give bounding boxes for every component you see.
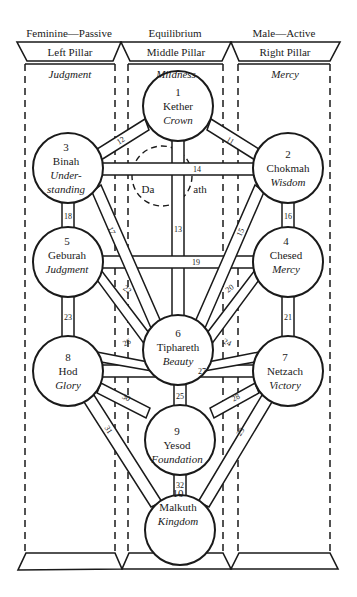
binah-name: Binah bbox=[53, 155, 80, 167]
right-pillar-polarity: Male—Active bbox=[253, 27, 316, 39]
path-23-label: 23 bbox=[64, 313, 72, 322]
hod-number: 8 bbox=[65, 351, 71, 363]
chesed-meaning: Mercy bbox=[271, 263, 300, 275]
binah-meaning-line2: standing bbox=[47, 183, 85, 195]
chesed-name: Chesed bbox=[270, 249, 303, 261]
middle-pillar-name: Middle Pillar bbox=[147, 46, 206, 58]
path-14-label: 14 bbox=[193, 165, 201, 174]
left-pillar-name: Left Pillar bbox=[48, 46, 93, 58]
right-pillar-quality: Mercy bbox=[270, 68, 299, 80]
daath-label-right: ath bbox=[193, 183, 207, 195]
daath-label-left: Da bbox=[142, 183, 155, 195]
tiphareth-number: 6 bbox=[175, 327, 181, 339]
malkuth-meaning: Kingdom bbox=[157, 515, 198, 527]
malkuth-name: Malkuth bbox=[159, 501, 197, 513]
path-14 bbox=[102, 163, 254, 175]
middle-pillar-polarity: Equilibrium bbox=[148, 27, 202, 39]
kether-meaning: Crown bbox=[163, 114, 193, 126]
path-20-label: 20 bbox=[224, 283, 236, 295]
yesod-number: 9 bbox=[174, 425, 180, 437]
tree-of-life-diagram: Feminine—Passive Equilibrium Male—Active… bbox=[0, 0, 357, 597]
binah-meaning-line1: Under- bbox=[50, 169, 82, 181]
path-26-label: 26 bbox=[121, 337, 132, 349]
yesod-name: Yesod bbox=[163, 439, 191, 451]
netzach-name: Netzach bbox=[267, 365, 304, 377]
middle-pillar-quality: Mildness bbox=[155, 68, 196, 80]
chesed-number: 4 bbox=[283, 235, 289, 247]
binah-number: 3 bbox=[63, 141, 69, 153]
chokmah-name: Chokmah bbox=[267, 162, 310, 174]
path-27-label: 27 bbox=[198, 367, 206, 376]
hod-meaning: Glory bbox=[55, 379, 81, 391]
left-pillar-quality: Judgment bbox=[49, 68, 93, 80]
left-pillar-base bbox=[18, 553, 122, 570]
path-22-label: 22 bbox=[121, 284, 133, 296]
yesod-meaning: Foundation bbox=[150, 453, 203, 465]
kether-name: Kether bbox=[163, 100, 193, 112]
path-21-label: 21 bbox=[284, 313, 292, 322]
right-pillar-base bbox=[231, 553, 338, 569]
netzach-meaning: Victory bbox=[269, 379, 301, 391]
path-25-label: 25 bbox=[176, 392, 184, 401]
kether-number: 1 bbox=[175, 86, 181, 98]
path-13-label: 13 bbox=[174, 225, 182, 234]
geburah-meaning: Judgment bbox=[46, 263, 90, 275]
path-16-label: 16 bbox=[284, 212, 292, 221]
path-32-label: 32 bbox=[176, 481, 184, 490]
geburah-number: 5 bbox=[64, 235, 70, 247]
chokmah-number: 2 bbox=[285, 148, 291, 160]
path-19-label: 19 bbox=[192, 258, 200, 267]
tiphareth-meaning: Beauty bbox=[163, 355, 194, 367]
netzach-number: 7 bbox=[282, 351, 288, 363]
path-18-label: 18 bbox=[64, 212, 72, 221]
hod-name: Hod bbox=[59, 365, 78, 377]
chokmah-meaning: Wisdom bbox=[271, 176, 306, 188]
left-pillar-polarity: Feminine—Passive bbox=[26, 27, 112, 39]
right-pillar-name: Right Pillar bbox=[259, 46, 310, 58]
tiphareth-name: Tiphareth bbox=[157, 341, 200, 353]
geburah-name: Geburah bbox=[48, 249, 86, 261]
